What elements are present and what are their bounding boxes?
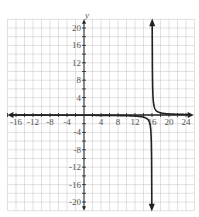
y-tick-label: -8 [74, 145, 82, 155]
y-tick-label: -16 [69, 180, 81, 190]
x-tick-label: 20 [165, 117, 175, 127]
y-tick-label: -20 [69, 197, 81, 207]
y-tick-label: 12 [72, 58, 81, 68]
x-tick-label: -8 [46, 117, 54, 127]
y-tick-label: -4 [74, 127, 82, 137]
graph: -16-12-8-44812162024-20-16-12-8-44812162… [0, 0, 199, 217]
x-tick-label: -4 [63, 117, 71, 127]
x-tick-label: 4 [99, 117, 104, 127]
y-tick-label: 4 [77, 93, 82, 103]
y-tick-label: -12 [69, 162, 81, 172]
y-axis-label: y [84, 10, 89, 20]
y-tick-label: 8 [77, 75, 82, 85]
y-tick-label: 16 [72, 40, 82, 50]
x-tick-label: -16 [10, 117, 22, 127]
y-tick-label: 20 [72, 23, 82, 33]
x-tick-label: 12 [131, 117, 140, 127]
x-tick-label: 8 [116, 117, 121, 127]
x-tick-label: -12 [27, 117, 39, 127]
x-tick-label: 24 [182, 117, 192, 127]
